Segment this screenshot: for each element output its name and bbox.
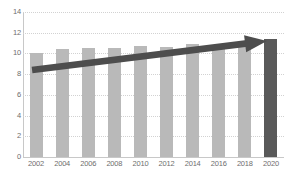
gridline xyxy=(23,33,284,34)
y-axis-tick-label: 8 xyxy=(3,70,21,78)
bar xyxy=(56,49,69,157)
y-axis-tick-label: 12 xyxy=(3,29,21,37)
gridline xyxy=(23,12,284,13)
x-axis-tick-label: 2006 xyxy=(80,160,96,168)
bar xyxy=(238,47,251,157)
y-axis-tick-labels: 02468101214 xyxy=(0,0,21,182)
bar xyxy=(264,39,277,157)
gridline xyxy=(23,157,284,158)
x-axis-tick-label: 2012 xyxy=(159,160,175,168)
bar xyxy=(30,53,43,157)
bar xyxy=(82,48,95,157)
x-axis-tick-label: 2016 xyxy=(211,160,227,168)
x-axis-tick-label: 2018 xyxy=(237,160,253,168)
x-axis-tick-label: 2014 xyxy=(185,160,201,168)
bar xyxy=(212,48,225,157)
x-axis-tick-label: 2020 xyxy=(263,160,279,168)
bar xyxy=(134,46,147,157)
bar-chart: 02468101214 2002200420062008201020122014… xyxy=(0,0,287,182)
y-axis-tick-label: 6 xyxy=(3,91,21,99)
x-axis-tick-label: 2004 xyxy=(54,160,70,168)
bar xyxy=(160,47,173,157)
y-axis-tick-label: 10 xyxy=(3,50,21,58)
y-axis-tick-label: 0 xyxy=(3,153,21,161)
x-axis-tick-label: 2010 xyxy=(132,160,148,168)
x-axis-tick-label: 2002 xyxy=(28,160,44,168)
y-axis-tick-label: 2 xyxy=(3,133,21,141)
x-axis-tick-label: 2008 xyxy=(106,160,122,168)
plot-area xyxy=(23,12,284,157)
y-axis-tick-label: 4 xyxy=(3,112,21,120)
y-axis-tick-label: 14 xyxy=(3,8,21,16)
bar xyxy=(108,48,121,157)
bar xyxy=(186,44,199,157)
x-axis-tick-labels: 2002200420062008201020122014201620182020 xyxy=(23,160,284,174)
